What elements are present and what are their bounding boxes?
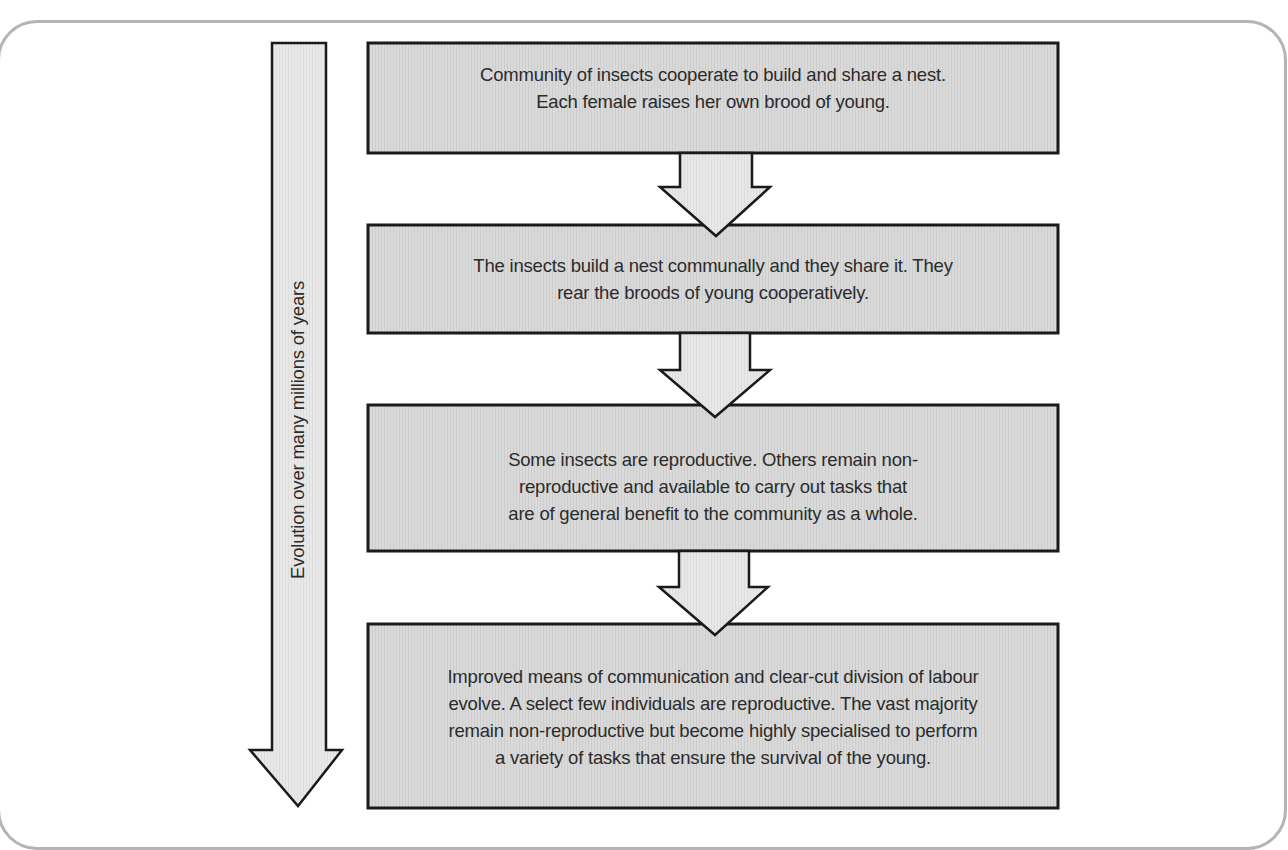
timeline-label: Evolution over many millions of years	[287, 281, 309, 579]
step-box-4: Improved means of communication and clea…	[368, 635, 1058, 808]
step-3-text: Some insects are reproductive. Others re…	[508, 446, 918, 527]
step-4-text: Improved means of communication and clea…	[447, 663, 978, 771]
down-arrow-icon-3	[659, 551, 768, 635]
step-2-text: The insects build a nest communally and …	[473, 252, 952, 306]
step-1-text: Community of insects cooperate to build …	[480, 61, 946, 115]
step-box-1: Community of insects cooperate to build …	[368, 43, 1058, 153]
step-box-3: Some insects are reproductive. Others re…	[368, 417, 1058, 551]
step-box-2: The insects build a nest communally and …	[368, 236, 1058, 333]
